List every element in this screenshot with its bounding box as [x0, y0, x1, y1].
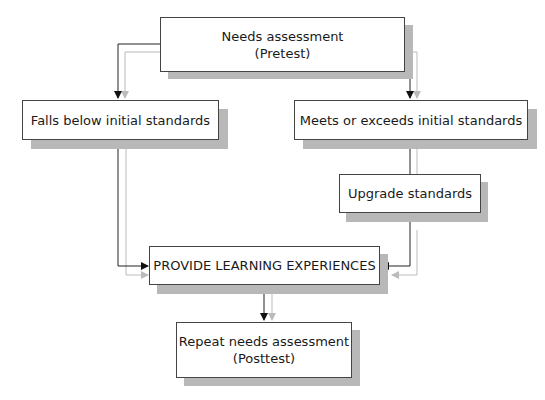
- node-upgrade-standards: Upgrade standards: [339, 174, 481, 213]
- node-label: Meets or exceeds initial standards: [300, 112, 523, 129]
- node-label: PROVIDE LEARNING EXPERIENCES: [153, 257, 375, 274]
- node-sublabel: (Pretest): [255, 45, 311, 62]
- node-label: Falls below initial standards: [31, 112, 210, 129]
- node-label: Upgrade standards: [348, 185, 472, 202]
- node-label: Needs assessment: [222, 28, 344, 45]
- node-meets-or-exceeds: Meets or exceeds initial standards: [294, 100, 528, 140]
- node-falls-below: Falls below initial standards: [22, 100, 219, 140]
- node-repeat-needs-assessment: Repeat needs assessment (Posttest): [176, 322, 352, 378]
- node-sublabel: (Posttest): [233, 350, 295, 367]
- node-provide-learning: PROVIDE LEARNING EXPERIENCES: [149, 246, 380, 285]
- node-label: Repeat needs assessment: [179, 333, 349, 350]
- node-needs-assessment: Needs assessment (Pretest): [160, 17, 405, 72]
